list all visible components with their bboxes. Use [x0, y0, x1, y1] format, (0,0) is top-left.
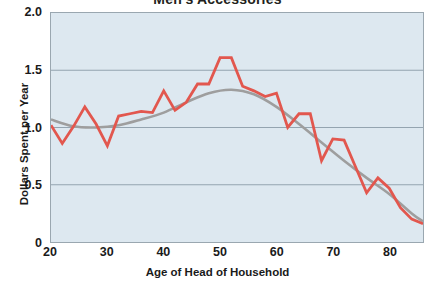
y-tick-label: 1.5	[0, 63, 46, 77]
series-line	[51, 58, 423, 224]
x-axis-tick-labels: 20304050607080	[0, 245, 435, 263]
x-tick-label: 80	[383, 245, 397, 259]
y-tick-label: 2.0	[0, 5, 46, 19]
y-tick-label: 1.0	[0, 121, 46, 135]
plot-area	[50, 12, 424, 243]
x-tick-label: 70	[326, 245, 340, 259]
chart-title: Men's Accessories	[0, 0, 435, 7]
y-axis-tick-labels: 00.51.01.52.0	[0, 0, 46, 287]
series-layer	[51, 58, 423, 224]
x-tick-label: 40	[156, 245, 170, 259]
plot-svg	[51, 13, 423, 242]
x-axis-title: Age of Head of Household	[0, 266, 435, 278]
x-tick-label: 60	[270, 245, 284, 259]
x-tick-label: 50	[213, 245, 227, 259]
y-tick-label: 0.5	[0, 178, 46, 192]
series-line	[51, 90, 423, 222]
chart-figure: Men's Accessories Dollars Spent per Year…	[0, 0, 435, 287]
x-tick-label: 30	[100, 245, 114, 259]
x-tick-label: 20	[43, 245, 57, 259]
